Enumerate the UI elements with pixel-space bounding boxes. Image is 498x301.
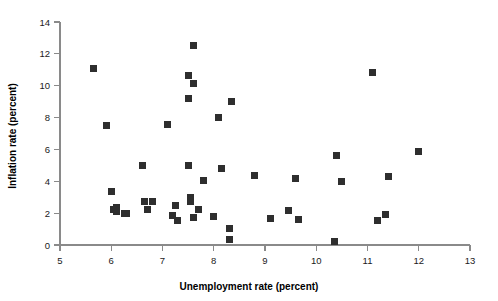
data-point <box>113 208 120 215</box>
x-tick-label: 5 <box>57 255 62 266</box>
data-point <box>331 238 338 245</box>
data-point <box>385 173 392 180</box>
scatter-chart: 024681012145678910111213 Unemployment ra… <box>0 0 498 301</box>
y-tick-label: 6 <box>45 144 50 155</box>
data-point <box>195 206 202 213</box>
axis-tick-labels: 024681012145678910111213 <box>39 17 475 267</box>
data-point <box>185 95 192 102</box>
y-tick-label: 12 <box>39 48 50 59</box>
x-axis-title: Unemployment rate (percent) <box>180 281 319 292</box>
data-point <box>144 206 151 213</box>
data-point <box>215 114 222 121</box>
data-point <box>333 152 340 159</box>
data-point <box>251 172 258 179</box>
data-point <box>382 211 389 218</box>
data-point <box>190 214 197 221</box>
data-point <box>369 69 376 76</box>
x-tick-label: 12 <box>413 255 424 266</box>
data-point <box>90 65 97 72</box>
plot-area: 024681012145678910111213 Unemployment ra… <box>0 0 498 301</box>
data-point <box>190 80 197 87</box>
data-point <box>149 198 156 205</box>
y-axis-title: Inflation rate (percent) <box>7 83 18 189</box>
x-tick-label: 6 <box>109 255 114 266</box>
data-point <box>295 216 302 223</box>
data-point <box>374 217 381 224</box>
data-point <box>185 72 192 79</box>
data-point <box>139 162 146 169</box>
data-point <box>292 175 299 182</box>
data-point <box>338 178 345 185</box>
data-point <box>164 121 171 128</box>
y-tick-label: 2 <box>45 208 50 219</box>
data-point <box>103 122 110 129</box>
data-point <box>172 202 179 209</box>
y-tick-label: 8 <box>45 112 50 123</box>
y-tick-label: 14 <box>39 17 50 28</box>
data-point <box>174 217 181 224</box>
axis-ticks <box>54 22 470 251</box>
y-tick-label: 0 <box>45 240 50 251</box>
x-tick-label: 9 <box>262 255 267 266</box>
y-tick-label: 4 <box>45 176 50 187</box>
data-point <box>200 177 207 184</box>
data-point <box>210 213 217 220</box>
x-tick-label: 7 <box>160 255 165 266</box>
data-point <box>141 198 148 205</box>
x-tick-label: 11 <box>363 255 373 266</box>
data-point <box>226 236 233 243</box>
data-point <box>190 42 197 49</box>
x-tick-label: 8 <box>211 255 216 266</box>
data-point <box>267 215 274 222</box>
data-point <box>226 225 233 232</box>
data-point <box>187 198 194 205</box>
data-point <box>218 165 225 172</box>
data-point <box>415 148 422 155</box>
y-tick-label: 10 <box>39 80 50 91</box>
data-point <box>228 98 235 105</box>
data-point <box>123 210 130 217</box>
data-point <box>285 207 292 214</box>
x-tick-label: 13 <box>465 255 476 266</box>
data-point <box>185 162 192 169</box>
x-tick-label: 10 <box>311 255 322 266</box>
data-point <box>108 188 115 195</box>
data-points <box>90 42 422 244</box>
